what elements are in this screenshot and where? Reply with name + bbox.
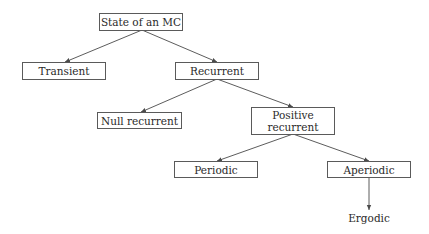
node-positive-recurrent: Positive recurrent [251, 107, 335, 135]
node-transient: Transient [22, 62, 106, 80]
node-label-line2: recurrent [267, 121, 318, 133]
node-aperiodic: Aperiodic [327, 161, 411, 178]
edge-positive-to-periodic [217, 134, 293, 161]
node-state-of-mc: State of an MC [99, 13, 183, 31]
node-label: Transient [39, 65, 90, 77]
edge-root-to-recurrent [142, 30, 217, 62]
node-label-line1: Positive [272, 109, 313, 121]
diagram-edges [0, 0, 429, 234]
edge-recurrent-to-positive-recurrent [217, 79, 293, 107]
node-periodic: Periodic [174, 161, 258, 178]
edge-recurrent-to-null-recurrent [141, 79, 217, 112]
node-label: Aperiodic [343, 164, 394, 176]
node-label: State of an MC [101, 16, 181, 28]
node-label: Null recurrent [101, 115, 178, 127]
node-label: Periodic [194, 164, 237, 176]
node-label: Ergodic [348, 212, 390, 224]
node-ergodic: Ergodic [344, 212, 394, 224]
node-label: Recurrent [190, 65, 244, 77]
node-null-recurrent: Null recurrent [97, 112, 182, 129]
markov-chain-state-diagram: State of an MC Transient Recurrent Null … [0, 0, 429, 234]
edge-root-to-transient [65, 30, 142, 62]
edge-positive-to-aperiodic [293, 134, 369, 161]
node-recurrent: Recurrent [175, 62, 259, 80]
